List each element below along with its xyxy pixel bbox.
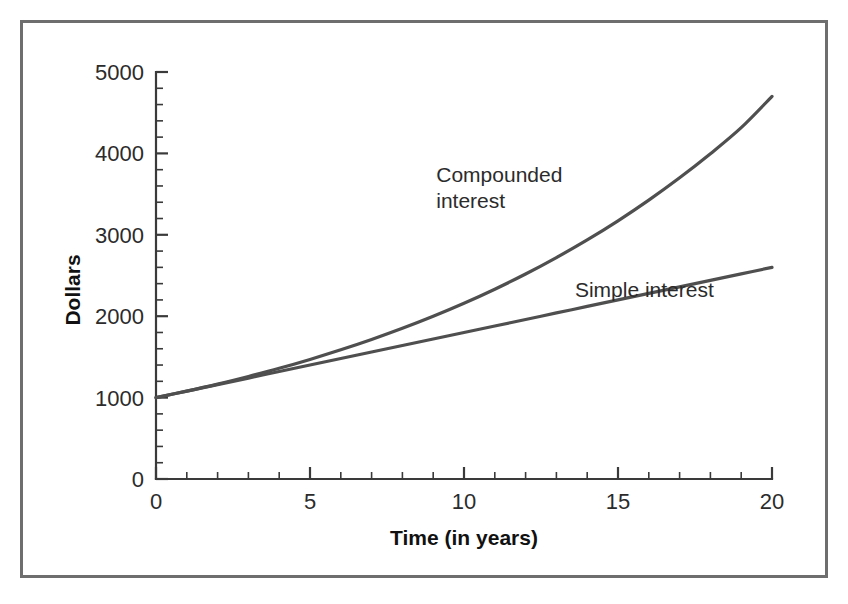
- x-tick-label: 15: [606, 489, 630, 514]
- x-axis-tick-labels: 05101520: [150, 489, 784, 514]
- y-axis-title: Dollars: [61, 254, 84, 325]
- y-tick-label: 1000: [95, 386, 144, 411]
- x-tick-label: 5: [304, 489, 316, 514]
- y-tick-label: 0: [132, 467, 144, 492]
- y-tick-label: 2000: [95, 304, 144, 329]
- annotation-simple-interest: Simple interest: [575, 278, 714, 301]
- annotation-compounded-interest: Compoundedinterest: [436, 163, 562, 212]
- y-axis-ticks: [156, 72, 168, 479]
- axes-group: [156, 72, 772, 479]
- y-axis-tick-labels: 010002000300040005000: [95, 60, 144, 492]
- y-tick-label: 5000: [95, 60, 144, 85]
- x-axis-ticks: [156, 467, 772, 479]
- interest-growth-line-chart: 010002000300040005000 05101520 Dollars T…: [0, 0, 848, 604]
- x-tick-label: 10: [452, 489, 476, 514]
- x-tick-label: 20: [760, 489, 784, 514]
- x-tick-label: 0: [150, 489, 162, 514]
- y-tick-label: 4000: [95, 141, 144, 166]
- chart-figure: 010002000300040005000 05101520 Dollars T…: [0, 0, 848, 604]
- data-series-group: [156, 96, 772, 397]
- x-axis-title: Time (in years): [390, 526, 538, 549]
- y-tick-label: 3000: [95, 223, 144, 248]
- series-curve-compounded-interest: [156, 96, 772, 397]
